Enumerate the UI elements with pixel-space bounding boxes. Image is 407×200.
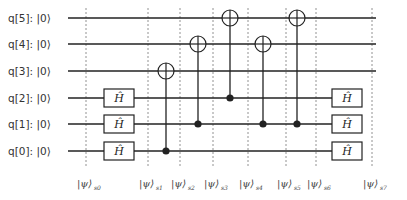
qubit-label: q[4]: |0⟩: [8, 38, 51, 51]
state-label: |ψ⟩s4: [239, 178, 263, 191]
svg-text:|ψ⟩: |ψ⟩: [363, 178, 378, 190]
qubit-label: q[3]: |0⟩: [8, 65, 51, 78]
target-oplus-icon: [289, 10, 305, 26]
hadamard-gate: Ĥ: [104, 142, 134, 160]
target-oplus-icon: [255, 36, 271, 52]
qubit-label: q[0]: |0⟩: [8, 145, 51, 158]
svg-text:Ĥ: Ĥ: [341, 144, 352, 158]
hadamard-gate: Ĥ: [332, 142, 362, 160]
control-dot: [226, 94, 233, 101]
svg-text:|ψ⟩: |ψ⟩: [239, 178, 254, 190]
hadamard-gate: Ĥ: [104, 89, 134, 107]
svg-text:Ĥ: Ĥ: [113, 117, 124, 131]
svg-text:|ψ⟩: |ψ⟩: [204, 178, 219, 190]
state-label: |ψ⟩s6: [307, 178, 331, 191]
svg-text:Ĥ: Ĥ: [113, 91, 124, 105]
control-dot: [259, 120, 266, 127]
cnot-gate: [222, 10, 238, 102]
control-dot: [293, 120, 300, 127]
svg-text:|ψ⟩: |ψ⟩: [139, 178, 154, 190]
target-oplus-icon: [158, 63, 174, 79]
state-label: |ψ⟩s1: [139, 178, 163, 191]
qubit-label: q[1]: |0⟩: [8, 118, 51, 131]
state-label: |ψ⟩s3: [204, 178, 228, 191]
cnot-gate: [158, 63, 174, 155]
svg-text:s3: s3: [221, 184, 228, 191]
svg-text:s2: s2: [188, 184, 195, 191]
target-oplus-icon: [190, 36, 206, 52]
cnot-gate: [289, 10, 305, 128]
svg-text:s7: s7: [380, 184, 387, 191]
qubit-label: q[5]: |0⟩: [8, 12, 51, 25]
svg-text:s1: s1: [156, 184, 163, 191]
cnot-gate: [190, 36, 206, 128]
svg-text:s4: s4: [256, 184, 263, 191]
state-label: |ψ⟩s7: [363, 178, 387, 191]
svg-text:s5: s5: [294, 184, 301, 191]
hadamard-gate: Ĥ: [332, 89, 362, 107]
svg-text:|ψ⟩: |ψ⟩: [171, 178, 186, 190]
state-label: |ψ⟩s2: [171, 178, 195, 191]
control-dot: [162, 147, 169, 154]
svg-text:|ψ⟩: |ψ⟩: [307, 178, 322, 190]
svg-text:|ψ⟩: |ψ⟩: [77, 178, 92, 190]
qubit-label: q[2]: |0⟩: [8, 92, 51, 105]
quantum-circuit-diagram: q[5]: |0⟩q[4]: |0⟩q[3]: |0⟩q[2]: |0⟩q[1]…: [0, 0, 407, 200]
target-oplus-icon: [222, 10, 238, 26]
svg-text:s0: s0: [94, 184, 101, 191]
hadamard-gate: Ĥ: [332, 115, 362, 133]
svg-text:Ĥ: Ĥ: [113, 144, 124, 158]
state-label: |ψ⟩s5: [277, 178, 301, 191]
svg-text:Ĥ: Ĥ: [341, 117, 352, 131]
state-label: |ψ⟩s0: [77, 178, 101, 191]
hadamard-gate: Ĥ: [104, 115, 134, 133]
svg-text:Ĥ: Ĥ: [341, 91, 352, 105]
control-dot: [194, 120, 201, 127]
svg-text:|ψ⟩: |ψ⟩: [277, 178, 292, 190]
svg-text:s6: s6: [324, 184, 331, 191]
cnot-gate: [255, 36, 271, 128]
